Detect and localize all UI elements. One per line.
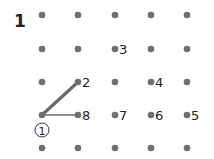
dot-number-label: 2: [82, 75, 90, 90]
grid-dot: [112, 112, 119, 119]
grid-dot: [148, 145, 155, 152]
grid-dot: [39, 12, 46, 19]
grid-dot: [184, 46, 191, 53]
dot-number-label: 7: [119, 108, 127, 123]
grid-dot: [39, 46, 46, 53]
grid-dot: [184, 145, 191, 152]
grid-dots: [39, 12, 191, 152]
puzzle-number: 1: [14, 11, 26, 31]
grid-dot: [39, 79, 46, 86]
dot-number-label: 3: [119, 42, 127, 57]
grid-dot: [112, 12, 119, 19]
dot-number-label: 5: [191, 108, 199, 123]
grid-dot: [184, 79, 191, 86]
line-segment: [42, 82, 78, 115]
grid-dot: [184, 12, 191, 19]
dot-labels: 2345678: [82, 42, 199, 123]
grid-dot: [112, 46, 119, 53]
grid-dot: [75, 79, 82, 86]
dot-grid-puzzle: 1 2345678 1: [0, 0, 214, 159]
grid-dot: [112, 79, 119, 86]
grid-dot: [75, 46, 82, 53]
grid-dot: [148, 79, 155, 86]
start-label: 1: [39, 125, 46, 138]
grid-dot: [148, 12, 155, 19]
grid-dot: [39, 145, 46, 152]
grid-dot: [75, 112, 82, 119]
start-marker: 1: [35, 123, 49, 138]
dot-number-label: 8: [82, 108, 90, 123]
grid-dot: [148, 46, 155, 53]
grid-dot: [184, 112, 191, 119]
grid-dot: [148, 112, 155, 119]
grid-dot: [75, 145, 82, 152]
grid-dot: [112, 145, 119, 152]
grid-dot: [75, 12, 82, 19]
dot-number-label: 4: [155, 75, 163, 90]
drawn-segments: [42, 82, 78, 115]
dot-number-label: 6: [155, 108, 163, 123]
grid-dot: [39, 112, 46, 119]
